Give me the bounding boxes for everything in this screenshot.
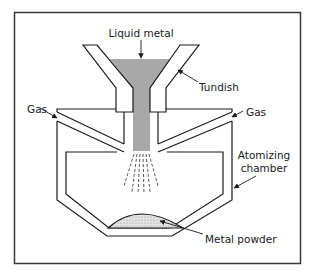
label-metal-powder: Metal powder	[205, 233, 277, 245]
atomized-spray	[124, 154, 158, 194]
label-liquid-metal: Liquid metal	[108, 27, 173, 39]
label-gas-right: Gas	[246, 106, 266, 118]
label-atomizing-chamber-2: chamber	[241, 162, 288, 174]
label-gas-left: Gas	[27, 103, 47, 115]
gas-atomization-diagram: Liquid metal Tundish Gas Gas Atomizing c…	[0, 0, 310, 272]
label-tundish: Tundish	[198, 81, 239, 93]
metal-powder-pile	[108, 214, 183, 228]
label-atomizing-chamber-1: Atomizing	[238, 149, 290, 161]
